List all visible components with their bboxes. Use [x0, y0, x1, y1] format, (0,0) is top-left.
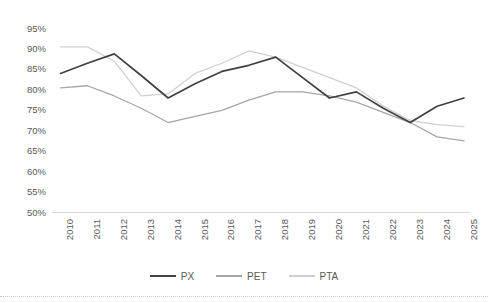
legend-swatch-pet — [216, 275, 242, 277]
legend-item-pta[interactable]: PTA — [289, 271, 339, 282]
line-chart: 95%90%85%80%75%70%65%60%55%50% 201020112… — [0, 0, 488, 303]
legend-item-px[interactable]: PX — [150, 271, 194, 282]
series-line-pet — [61, 86, 465, 141]
bottom-divider — [0, 296, 488, 297]
legend-label-pet: PET — [247, 271, 266, 282]
legend-swatch-pta — [289, 275, 315, 277]
legend-label-pta: PTA — [320, 271, 339, 282]
legend-swatch-px — [150, 275, 176, 277]
legend-item-pet[interactable]: PET — [216, 271, 266, 282]
legend-label-px: PX — [181, 271, 194, 282]
series-lines — [61, 47, 465, 141]
series-line-px — [61, 54, 465, 123]
chart-legend: PXPETPTA — [0, 266, 488, 286]
plot-area — [0, 0, 488, 303]
